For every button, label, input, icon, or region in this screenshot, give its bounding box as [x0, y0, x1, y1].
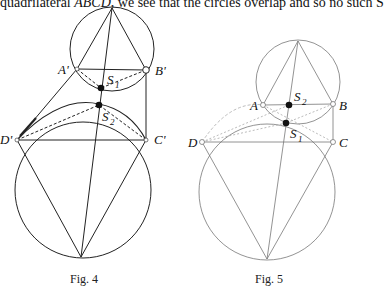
- label-c: C': [154, 132, 166, 147]
- label-a: A': [57, 62, 69, 77]
- bottom-circle: [199, 124, 335, 260]
- label-s2: S: [102, 109, 109, 124]
- label-s2-sub: 2: [110, 117, 115, 127]
- point-b: [143, 67, 150, 74]
- point-s1: [283, 120, 290, 127]
- label-s1-sub: 1: [115, 80, 120, 90]
- figure-4-labels: A' B' C' D' S 1 S 2 Fig. 4: [0, 62, 166, 286]
- label-b: B: [339, 98, 347, 113]
- top-circle: [256, 40, 340, 124]
- label-s2-sub: 2: [302, 97, 307, 107]
- point-s1: [98, 85, 105, 92]
- figure-4: [15, 7, 154, 258]
- label-a: A: [249, 98, 258, 113]
- point-s2: [286, 102, 293, 109]
- label-d: D: [187, 135, 198, 150]
- label-s1-sub: 1: [298, 134, 303, 144]
- caption-fig4: Fig. 4: [70, 272, 98, 286]
- caption-fig5: Fig. 5: [255, 272, 283, 286]
- label-s1: S: [107, 72, 114, 87]
- point-s2: [96, 102, 103, 109]
- label-b: B': [155, 63, 166, 78]
- figure-5: [199, 40, 340, 260]
- label-d: D': [0, 132, 12, 147]
- label-s2: S: [294, 89, 301, 104]
- label-s1: S: [290, 126, 297, 141]
- label-c: C: [339, 135, 348, 150]
